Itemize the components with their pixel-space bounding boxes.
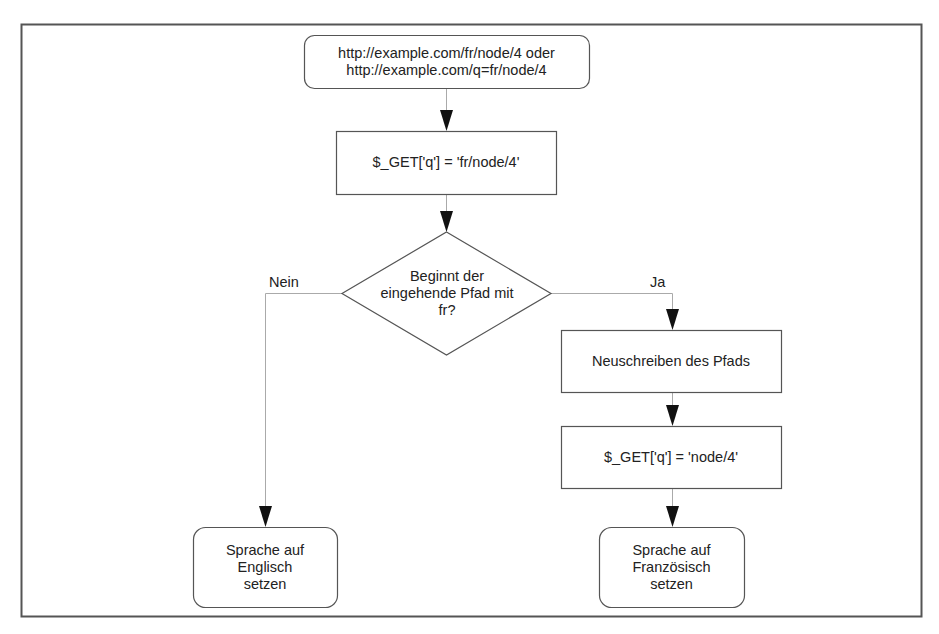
arrowhead-icon xyxy=(666,309,679,330)
arrowhead-icon xyxy=(440,211,453,232)
node-decision-label: Beginnt der eingehende Pfad mit fr? xyxy=(362,252,532,334)
node-set-french-label: Sprache auf Französisch setzen xyxy=(599,527,744,607)
edge-decision-to-english xyxy=(266,294,343,513)
edge-label-ja: Ja xyxy=(650,274,665,290)
arrowhead-icon xyxy=(259,506,272,527)
node-set-english-label: Sprache auf Englisch setzen xyxy=(193,527,337,607)
arrowhead-icon xyxy=(666,506,679,527)
node-get-stripped-label: $_GET['q'] = 'node/4' xyxy=(561,426,781,488)
edge-decision-to-rewrite xyxy=(551,294,673,317)
node-start-label: http://example.com/fr/node/4 oder http:/… xyxy=(304,35,589,88)
arrowhead-icon xyxy=(440,110,453,131)
edge-label-nein: Nein xyxy=(269,274,299,290)
node-rewrite-label: Neuschreiben des Pfads xyxy=(561,330,781,392)
arrowhead-icon xyxy=(666,405,679,426)
node-get-full-label: $_GET['q'] = 'fr/node/4' xyxy=(336,131,556,194)
